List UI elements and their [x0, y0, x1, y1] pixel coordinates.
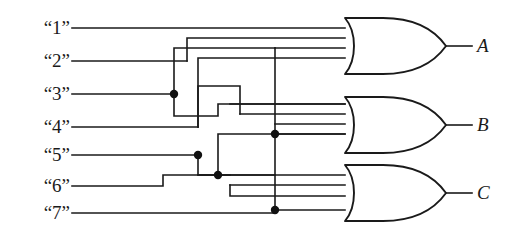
circuit-diagram: “1” “2” “3” “4” “5” “6” “7” A B C	[0, 0, 514, 242]
or-gate-a[interactable]	[345, 18, 472, 74]
junction-5	[194, 151, 202, 159]
wire-6-riser	[218, 134, 345, 175]
wire-input-6	[72, 175, 218, 186]
junction-bus-b	[271, 130, 279, 138]
wire-3-drop	[174, 94, 345, 116]
or-gate-b[interactable]	[345, 97, 472, 153]
wire-c-in1-riser	[230, 185, 345, 196]
junction-6	[214, 171, 222, 179]
or-gate-c[interactable]	[345, 165, 472, 221]
circuit-svg	[0, 0, 514, 242]
wire-3-riser	[174, 48, 345, 94]
junction-bus-c	[271, 206, 279, 214]
junction-3	[170, 90, 178, 98]
wire-4-riser	[198, 58, 345, 127]
wire-b-in2-riser	[198, 86, 240, 127]
